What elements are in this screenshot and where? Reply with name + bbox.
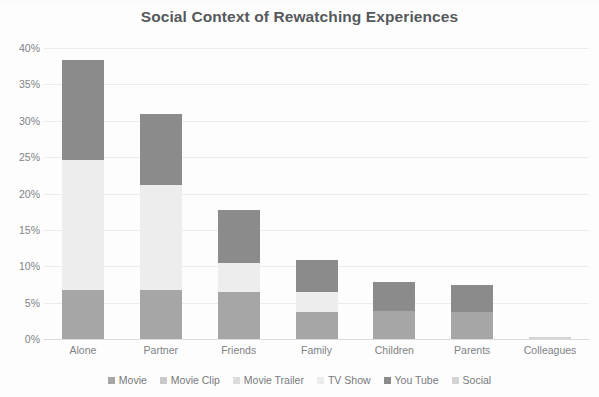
bar-segment[interactable]: [62, 60, 104, 160]
x-axis-tick-label: Alone: [69, 344, 96, 356]
y-axis-tick-label: 10%: [2, 260, 40, 272]
y-axis-tick-label: 40%: [2, 42, 40, 54]
legend-swatch-icon: [384, 377, 391, 384]
bar-segment[interactable]: [373, 311, 415, 339]
bar-column[interactable]: [529, 48, 571, 339]
bar-segment[interactable]: [296, 260, 338, 293]
bar-stack: [296, 260, 338, 339]
bar-segment[interactable]: [140, 290, 182, 339]
bar-stack: [373, 282, 415, 339]
legend-item[interactable]: TV Show: [317, 374, 371, 386]
legend-swatch-icon: [452, 377, 459, 384]
bar-segment[interactable]: [62, 290, 104, 339]
legend-item-label: Movie Clip: [171, 374, 220, 386]
bar-segment[interactable]: [296, 312, 338, 339]
x-axis-tick-label: Family: [301, 344, 332, 356]
legend-item[interactable]: You Tube: [384, 374, 439, 386]
legend-item-label: Movie Trailer: [244, 374, 304, 386]
legend-swatch-icon: [160, 377, 167, 384]
legend-item[interactable]: Movie: [108, 374, 147, 386]
chart-title: Social Context of Rewatching Experiences: [0, 8, 599, 26]
y-axis-tick-label: 20%: [2, 188, 40, 200]
bar-segment[interactable]: [140, 185, 182, 290]
legend-item[interactable]: Movie Trailer: [233, 374, 304, 386]
y-axis: 0%5%10%15%20%25%30%35%40%: [0, 0, 40, 397]
bar-segment[interactable]: [373, 282, 415, 310]
y-axis-tick-label: 30%: [2, 115, 40, 127]
bar-segment[interactable]: [451, 312, 493, 339]
x-axis-tick-label: Partner: [144, 344, 178, 356]
bar-stack: [451, 285, 493, 339]
legend-item-label: TV Show: [328, 374, 371, 386]
chart-legend: MovieMovie ClipMovie TrailerTV ShowYou T…: [0, 374, 599, 386]
legend-swatch-icon: [233, 377, 240, 384]
bar-column[interactable]: [62, 48, 104, 339]
x-axis: AlonePartnerFriendsFamilyChildrenParents…: [44, 344, 589, 364]
x-axis-tick-label: Children: [375, 344, 414, 356]
bar-segment[interactable]: [296, 292, 338, 312]
bar-segment[interactable]: [451, 285, 493, 312]
plot-area: [44, 48, 589, 339]
legend-swatch-icon: [317, 377, 324, 384]
x-axis-tick-label: Friends: [221, 344, 256, 356]
y-axis-tick-label: 25%: [2, 151, 40, 163]
bar-segment[interactable]: [218, 210, 260, 263]
y-axis-tick-label: 5%: [2, 297, 40, 309]
bar-column[interactable]: [140, 48, 182, 339]
x-axis-tick-label: Colleagues: [524, 344, 577, 356]
x-axis-baseline: [44, 339, 589, 340]
legend-item-label: You Tube: [395, 374, 439, 386]
bar-column[interactable]: [373, 48, 415, 339]
legend-item-label: Social: [463, 374, 492, 386]
legend-item-label: Movie: [119, 374, 147, 386]
bar-column[interactable]: [451, 48, 493, 339]
y-axis-tick-label: 15%: [2, 224, 40, 236]
y-axis-tick-label: 0%: [2, 333, 40, 345]
bar-column[interactable]: [218, 48, 260, 339]
y-axis-tick-label: 35%: [2, 78, 40, 90]
bar-segment[interactable]: [218, 292, 260, 339]
x-axis-tick-label: Parents: [454, 344, 490, 356]
bar-stack: [62, 60, 104, 339]
legend-swatch-icon: [108, 377, 115, 384]
bar-stack: [218, 210, 260, 339]
scan-artifact-band: [0, 0, 599, 3]
chart-container: Social Context of Rewatching Experiences…: [0, 0, 599, 397]
bar-segment[interactable]: [140, 114, 182, 185]
legend-item[interactable]: Movie Clip: [160, 374, 220, 386]
bar-column[interactable]: [296, 48, 338, 339]
bar-stack: [140, 114, 182, 340]
legend-item[interactable]: Social: [452, 374, 492, 386]
bar-segment[interactable]: [62, 160, 104, 290]
bar-segment[interactable]: [218, 263, 260, 292]
